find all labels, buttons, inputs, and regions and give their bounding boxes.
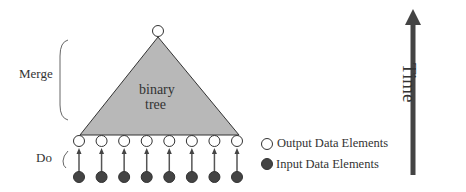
legend-output-label: Output Data Elements bbox=[277, 136, 388, 151]
input-data-node bbox=[186, 172, 197, 183]
input-data-node bbox=[164, 172, 175, 183]
input-arrow-head bbox=[122, 148, 127, 154]
output-data-node bbox=[209, 136, 220, 147]
do-brace bbox=[63, 151, 68, 168]
input-data-node bbox=[232, 172, 243, 183]
input-data-node bbox=[141, 172, 152, 183]
output-data-node bbox=[141, 136, 152, 147]
legend-input-label: Input Data Elements bbox=[276, 157, 379, 172]
input-arrow-head bbox=[77, 148, 82, 154]
input-arrow-head bbox=[212, 148, 217, 154]
tree-label-line1: binary bbox=[139, 82, 175, 98]
legend-input-icon bbox=[262, 159, 273, 170]
output-data-node bbox=[186, 136, 197, 147]
output-data-node bbox=[96, 136, 107, 147]
input-arrow-head bbox=[189, 148, 194, 154]
input-data-node bbox=[119, 172, 130, 183]
output-data-node bbox=[74, 136, 85, 147]
input-data-node bbox=[74, 172, 85, 183]
time-label: Time bbox=[398, 63, 420, 102]
input-arrow-head bbox=[167, 148, 172, 154]
time-arrow-head bbox=[405, 9, 421, 25]
output-data-node bbox=[232, 136, 243, 147]
merge-label: Merge bbox=[19, 66, 53, 82]
output-data-node bbox=[119, 136, 130, 147]
merge-brace bbox=[60, 40, 68, 120]
root-output-node bbox=[153, 26, 164, 37]
input-data-node bbox=[209, 172, 220, 183]
output-data-node bbox=[164, 136, 175, 147]
do-label: Do bbox=[36, 150, 52, 166]
diagram-canvas bbox=[0, 0, 466, 192]
tree-label-line2: tree bbox=[145, 97, 166, 113]
input-arrow-head bbox=[99, 148, 104, 154]
input-arrow-head bbox=[144, 148, 149, 154]
input-arrow-head bbox=[235, 148, 240, 154]
leaf-column-group bbox=[74, 136, 243, 183]
input-data-node bbox=[96, 172, 107, 183]
legend-output-icon bbox=[262, 139, 273, 150]
